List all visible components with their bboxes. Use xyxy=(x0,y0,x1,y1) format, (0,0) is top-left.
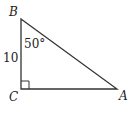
right-angle-marker xyxy=(21,81,29,89)
triangle-abc xyxy=(21,19,117,89)
angle-b-measure: 50° xyxy=(24,37,45,51)
side-bc-length: 10 xyxy=(3,51,18,65)
triangle-diagram: B C A 10 50° xyxy=(0,0,139,113)
vertex-label-b: B xyxy=(8,5,18,19)
vertex-label-a: A xyxy=(118,89,128,103)
vertex-label-c: C xyxy=(9,90,18,104)
